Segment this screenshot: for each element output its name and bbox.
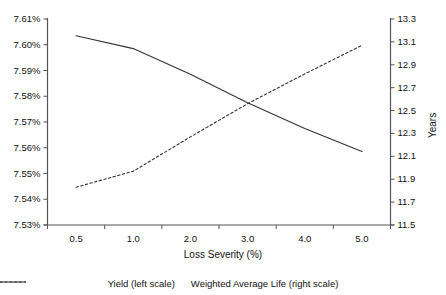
y-axis-right-tick-label: 12.7 [398, 83, 417, 93]
legend-entry[interactable]: Yield (left scale) [108, 278, 175, 289]
x-axis-tick-label: 1.0 [108, 234, 158, 244]
x-axis-title: Loss Severity (%) [0, 249, 446, 260]
y-axis-right-tick-label: 11.5 [398, 220, 416, 230]
x-axis-tick-label: 2.0 [165, 234, 215, 244]
y-axis-left-tick-label: 7.59% [0, 66, 41, 76]
y-axis-right-tick-label: 13.3 [398, 14, 417, 24]
y-axis-right-tick-label: 11.7 [398, 197, 416, 207]
y-axis-right-title: Years [427, 113, 438, 138]
y-axis-right-tick-label: 12.9 [398, 60, 417, 70]
y-axis-left-tick-label: 7.54% [0, 194, 41, 204]
y-axis-left-tick-label: 7.57% [0, 117, 41, 127]
x-axis-tick-label: 4.0 [280, 234, 330, 244]
legend-label: Weighted Average Life (right scale) [191, 278, 339, 289]
y-axis-left-tick-label: 7.53% [0, 220, 41, 230]
y-axis-right-tick-label: 12.1 [398, 151, 417, 161]
y-axis-left-tick-label: 7.58% [0, 91, 41, 101]
series-line [76, 36, 362, 152]
x-axis-tick-label: 5.0 [337, 234, 387, 244]
y-axis-right-tick-label: 12.5 [398, 106, 417, 116]
y-axis-right-tick-label: 11.9 [398, 174, 416, 184]
y-axis-right-tick-label: 13.1 [398, 37, 417, 47]
legend-label: Yield (left scale) [108, 278, 175, 289]
x-axis-tick-label: 3.0 [223, 234, 273, 244]
x-axis-tick-label: 0.5 [51, 234, 101, 244]
chart-container: 7.53%7.54%7.55%7.56%7.57%7.58%7.59%7.60%… [0, 0, 446, 295]
series-line [76, 45, 362, 187]
legend-entry[interactable]: Weighted Average Life (right scale) [191, 278, 339, 289]
y-axis-left-tick-label: 7.60% [0, 40, 41, 50]
y-axis-right-tick-label: 12.3 [398, 128, 417, 138]
y-axis-left-tick-label: 7.61% [0, 14, 41, 24]
y-axis-left-tick-label: 7.55% [0, 169, 41, 179]
chart-legend: Yield (left scale)Weighted Average Life … [0, 278, 446, 289]
y-axis-left-tick-label: 7.56% [0, 143, 41, 153]
legend-dashed-line-icon [0, 278, 26, 286]
